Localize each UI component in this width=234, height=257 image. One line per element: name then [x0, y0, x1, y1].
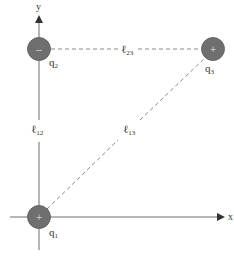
- distance-label-l13: ℓ13: [123, 123, 136, 137]
- x-axis-label: x: [228, 211, 233, 222]
- y-axis-label: y: [36, 1, 41, 12]
- distance-line-l13: [47, 140, 118, 209]
- charge-label-q3: q3: [205, 62, 215, 76]
- distance-line-l13-upper: [140, 57, 206, 120]
- charge-label-q2: q2: [49, 56, 59, 70]
- charge-sign-positive: +: [210, 45, 217, 54]
- distance-label-l23: ℓ23: [121, 43, 134, 57]
- charge-q1: +: [28, 206, 51, 229]
- charge-sign-negative: −: [35, 45, 43, 55]
- charge-q3: +: [202, 38, 225, 61]
- charge-sign-positive: +: [36, 213, 43, 222]
- charge-label-q1: q1: [49, 226, 59, 240]
- charge-diagram: y x ℓ12 ℓ23 ℓ13 − q2 + q3 + q1: [0, 0, 234, 257]
- charge-q2: −: [28, 38, 51, 61]
